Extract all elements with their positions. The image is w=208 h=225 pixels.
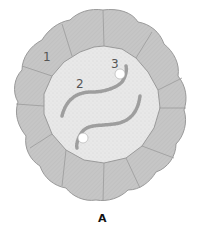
label-2: 2 (76, 77, 84, 91)
figure-caption: A (98, 212, 107, 225)
node-lower (78, 133, 88, 143)
label-3: 3 (111, 57, 119, 71)
label-1: 1 (43, 50, 51, 64)
diagram-canvas: 1 2 3 A (0, 0, 208, 225)
